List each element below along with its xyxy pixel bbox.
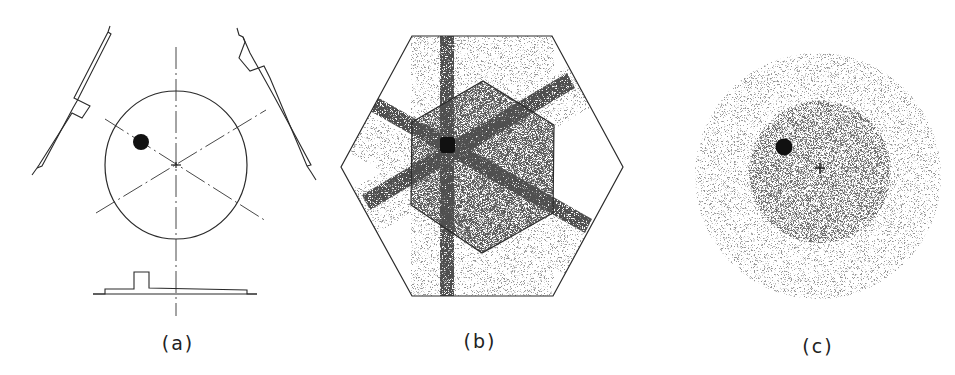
detector-upper-left bbox=[32, 26, 111, 175]
hot-spot bbox=[776, 139, 793, 156]
panel-label-b: (b) bbox=[464, 330, 497, 352]
axis-lines bbox=[96, 47, 266, 316]
panel-b bbox=[341, 36, 623, 296]
detector-upper-right bbox=[237, 28, 316, 180]
detector-bottom bbox=[93, 272, 257, 294]
hot-spot bbox=[133, 134, 149, 150]
figure-canvas bbox=[0, 0, 955, 375]
panel-c bbox=[695, 53, 941, 299]
hot-spot bbox=[440, 137, 455, 153]
panel-label-c: (c) bbox=[802, 335, 833, 357]
panel-a bbox=[32, 26, 316, 316]
panel-label-a: (a) bbox=[162, 332, 194, 354]
axis-minus-30 bbox=[105, 119, 266, 221]
